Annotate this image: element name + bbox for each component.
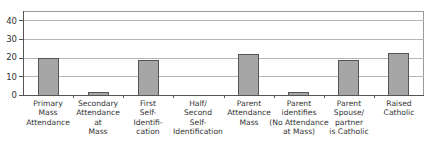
bar (338, 60, 359, 96)
plot-area (23, 11, 424, 95)
bar (38, 58, 59, 96)
gridline (24, 58, 424, 59)
y-tick-label: 0 (3, 90, 17, 100)
bar (238, 54, 259, 96)
gridline (24, 39, 424, 40)
y-axis-line (23, 11, 24, 96)
x-category-label: Raised Catholic (369, 99, 429, 118)
y-tick-label: 20 (3, 52, 17, 62)
y-tick-label: 30 (3, 34, 17, 44)
y-tick-label: 40 (3, 16, 17, 26)
y-tick-label: 10 (3, 72, 17, 82)
x-axis-line (23, 95, 424, 96)
bar-chart: 0 10 20 30 40 Primary Mass AttendanceSec… (0, 0, 434, 145)
gridline (24, 20, 424, 21)
bar (138, 60, 159, 96)
bar (388, 53, 409, 96)
gridline (24, 76, 424, 77)
